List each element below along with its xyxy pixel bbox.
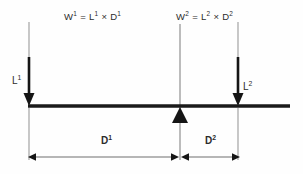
formula-right: W2 = L2 × D2: [176, 12, 233, 22]
lever-diagram: W1 = L1 × D1 W2 = L2 × D2 L1 L2 D1 D2: [0, 0, 303, 174]
dimension-label-d1-sup: 1: [108, 134, 112, 141]
formula-left: W1 = L1 × D1: [64, 12, 121, 22]
formula-right-result: W: [176, 11, 185, 22]
formula-right-equals: =: [192, 11, 198, 22]
formula-right-factor2-sup: 2: [229, 10, 233, 17]
dimension-arrow-d2-left: [181, 153, 189, 161]
formula-right-factor1-sup: 2: [207, 10, 211, 17]
formula-left-result: W: [64, 11, 73, 22]
dimension-label-d2-sup: 2: [212, 134, 216, 141]
fulcrum-triangle: [172, 107, 188, 123]
formula-left-factor1-sup: 1: [95, 10, 99, 17]
formula-left-equals: =: [80, 11, 86, 22]
load-label-left: L1: [12, 76, 21, 86]
load-label-right-sup: 2: [249, 80, 253, 87]
dimension-line-d1: [28, 153, 179, 161]
formula-right-result-sup: 2: [185, 10, 189, 17]
load-arrow-left-head: [24, 93, 35, 106]
load-label-left-sup: 1: [18, 74, 22, 81]
dimension-label-d2: D2: [205, 136, 216, 146]
dimension-label-d1: D1: [101, 136, 112, 146]
formula-left-times: ×: [101, 11, 107, 22]
formula-left-factor2-sup: 1: [117, 10, 121, 17]
formula-right-times: ×: [213, 11, 219, 22]
load-arrow-right-head: [233, 93, 244, 106]
dimension-arrow-d1-right: [171, 153, 179, 161]
dimension-arrow-d2-right: [232, 153, 240, 161]
dimension-line-d2: [181, 153, 240, 161]
load-label-right: L2: [243, 82, 252, 92]
load-arrow-left: [24, 57, 35, 106]
formula-left-result-sup: 1: [73, 10, 77, 17]
load-arrow-right: [233, 57, 244, 106]
lever-diagram-graphics: [0, 0, 303, 174]
